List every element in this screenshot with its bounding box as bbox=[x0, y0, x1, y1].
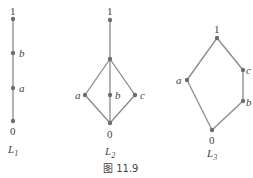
label-a: a bbox=[19, 82, 25, 94]
node-1 bbox=[11, 17, 15, 21]
label-b: b bbox=[115, 89, 121, 101]
label-1: 1 bbox=[214, 23, 220, 35]
node-a bbox=[83, 93, 87, 97]
lattice-name-L1: L1 bbox=[7, 143, 18, 158]
lattice-L2: 1 a b c 0 L2 bbox=[75, 5, 145, 160]
lattice-L1: 1 b a 0 L1 bbox=[7, 5, 25, 158]
lattice-diagrams: 1 b a 0 L1 1 a b c 0 L2 bbox=[0, 0, 253, 178]
label-c: c bbox=[140, 89, 145, 101]
node-join bbox=[108, 57, 112, 61]
node-a bbox=[11, 86, 15, 90]
lattice-L3: 1 c b a 0 L3 bbox=[176, 23, 252, 162]
label-b: b bbox=[246, 96, 252, 108]
node-0 bbox=[11, 119, 15, 123]
node-b bbox=[108, 93, 112, 97]
label-1: 1 bbox=[107, 5, 113, 17]
label-a: a bbox=[75, 89, 81, 101]
label-0: 0 bbox=[209, 134, 215, 146]
node-0 bbox=[108, 121, 112, 125]
node-1 bbox=[215, 36, 219, 40]
label-b: b bbox=[19, 47, 25, 59]
label-0: 0 bbox=[10, 125, 16, 137]
label-a: a bbox=[176, 74, 182, 86]
label-1: 1 bbox=[10, 5, 16, 17]
lattice-name-L2: L2 bbox=[104, 145, 115, 160]
figure-11-9: 1 b a 0 L1 1 a b c 0 L2 bbox=[0, 0, 253, 178]
node-1 bbox=[108, 18, 112, 22]
lattice-name-L3: L3 bbox=[206, 147, 217, 162]
node-c bbox=[241, 68, 245, 72]
node-0 bbox=[210, 128, 214, 132]
node-c bbox=[133, 93, 137, 97]
label-0: 0 bbox=[107, 128, 113, 140]
node-a bbox=[185, 78, 189, 82]
node-b bbox=[11, 51, 15, 55]
node-b bbox=[241, 99, 245, 103]
label-c: c bbox=[246, 64, 251, 76]
figure-caption: 图 11.9 bbox=[103, 163, 138, 174]
